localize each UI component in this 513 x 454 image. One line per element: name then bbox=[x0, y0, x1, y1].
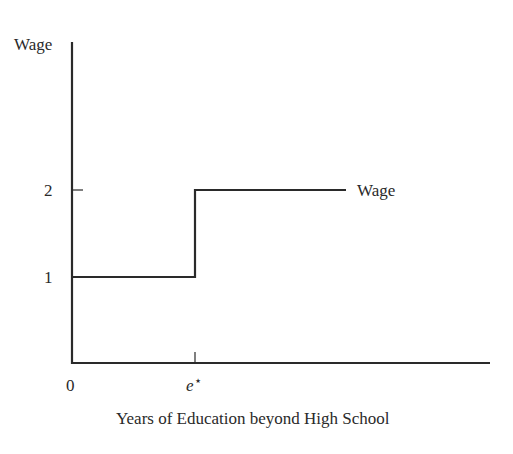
e-star-sup: ⋆ bbox=[194, 373, 202, 388]
wage-step-line bbox=[72, 190, 346, 277]
x-axis-title: Years of Education beyond High School bbox=[116, 409, 390, 428]
series-label: Wage bbox=[357, 181, 395, 200]
wage-step-chart: Wage 2 1 Wage 0 e⋆ Years of Education be… bbox=[0, 0, 513, 454]
y-tick-label-2: 2 bbox=[44, 181, 53, 200]
y-axis-title: Wage bbox=[14, 35, 52, 54]
e-star-label: e⋆ bbox=[186, 373, 202, 395]
origin-label: 0 bbox=[66, 376, 75, 395]
y-tick-label-1: 1 bbox=[44, 268, 53, 287]
